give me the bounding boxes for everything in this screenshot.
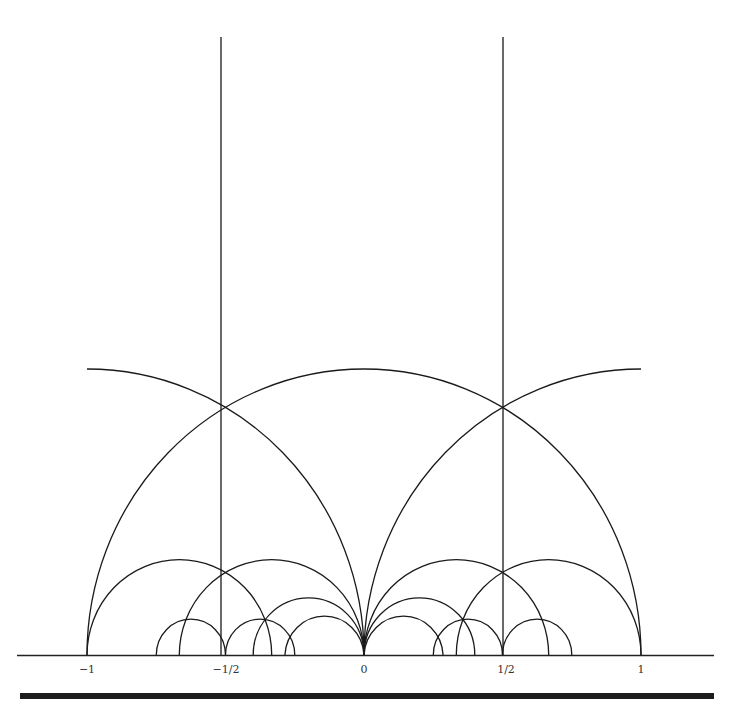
tick-label-pos1: 1 (638, 663, 645, 676)
semicircle-c-neg1-5 (253, 598, 364, 655)
semicircle-c-neg5-8 (156, 619, 225, 655)
semicircle-c-pos5-8 (503, 619, 572, 655)
tick-label-neg1: −1 (79, 663, 95, 676)
semicircle-c-neg1-3 (179, 560, 364, 655)
semicircle-c-pos1-5 (364, 598, 475, 655)
unit-semicircle (87, 369, 641, 655)
arc-center-neg1 (87, 369, 364, 655)
semicircle-c-pos1-3 (364, 560, 549, 655)
hyperbolic-tessellation-diagram (0, 0, 730, 708)
tick-label-zero: 0 (361, 663, 368, 676)
semicircle-c-neg3-8 (226, 619, 295, 655)
tick-label-pos-half: 1/2 (497, 663, 515, 676)
semicircle-c-neg1-7 (285, 616, 364, 655)
bottom-rule (20, 693, 714, 699)
semicircle-c-pos2-3 (456, 560, 641, 655)
semicircle-c-neg2-3 (87, 560, 272, 655)
semicircle-c-pos1-7 (364, 616, 443, 655)
tick-label-neg-half: −1/2 (213, 663, 240, 676)
semicircle-c-pos3-8 (433, 619, 502, 655)
